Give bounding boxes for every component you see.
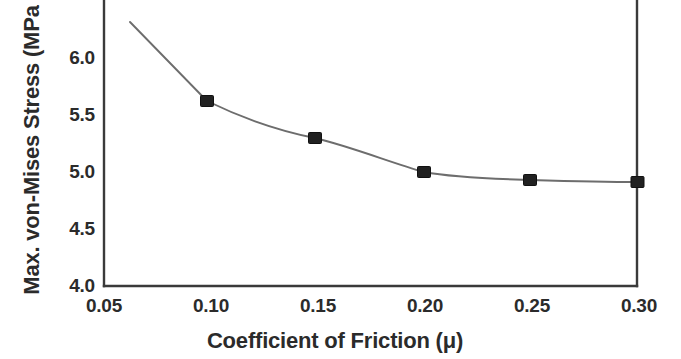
y-tick-label: 4.0 xyxy=(69,275,95,296)
data-point-marker xyxy=(418,167,431,178)
x-tick-label: 0.15 xyxy=(300,295,337,316)
x-tick-label: 0.05 xyxy=(86,295,123,316)
data-point-marker xyxy=(631,177,644,188)
y-tick-label: 5.5 xyxy=(69,104,95,125)
data-point-marker xyxy=(309,133,322,144)
data-point-marker xyxy=(201,96,214,107)
y-tick-label: 6.0 xyxy=(69,47,95,68)
data-point-marker xyxy=(524,175,537,186)
x-axis-title: Coefficient of Friction (μ) xyxy=(207,328,463,353)
x-tick-label: 0.10 xyxy=(193,295,229,316)
y-tick-label: 5.0 xyxy=(69,161,95,182)
chart-figure: 6.0 5.5 5.0 4.5 4.0 0.05 0.10 0.15 0.20 … xyxy=(0,0,681,359)
x-tick-label: 0.20 xyxy=(407,295,443,316)
y-tick-label: 4.5 xyxy=(69,218,95,239)
line-chart: 6.0 5.5 5.0 4.5 4.0 0.05 0.10 0.15 0.20 … xyxy=(0,0,681,359)
y-axis-title: Max. von-Mises Stress (MPa xyxy=(19,4,44,294)
x-tick-label: 0.25 xyxy=(514,295,551,316)
x-tick-label: 0.30 xyxy=(621,295,657,316)
